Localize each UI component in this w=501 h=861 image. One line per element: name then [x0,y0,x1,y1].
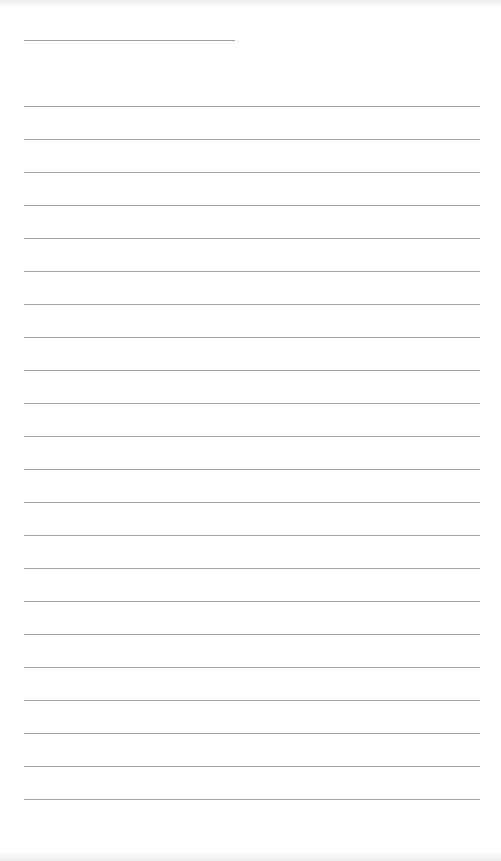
ruled-line [24,403,480,404]
scan-shadow-top [0,0,501,8]
ruled-line [24,667,480,668]
ruled-line [24,205,480,206]
ruled-line [24,733,480,734]
ruled-line [24,469,480,470]
ruled-line [24,700,480,701]
ruled-line [24,535,480,536]
ruled-line [24,601,480,602]
ruled-line [24,502,480,503]
lined-paper-page [0,0,501,861]
ruled-line [24,799,480,800]
ruled-line [24,304,480,305]
scan-shadow-bottom [0,851,501,861]
ruled-line [24,271,480,272]
ruled-line [24,238,480,239]
ruled-line [24,106,480,107]
ruled-line [24,139,480,140]
ruled-line [24,370,480,371]
ruled-line [24,436,480,437]
ruled-line [24,172,480,173]
ruled-line [24,766,480,767]
ruled-line [24,634,480,635]
ruled-line [24,337,480,338]
title-line [24,40,235,41]
ruled-line [24,568,480,569]
